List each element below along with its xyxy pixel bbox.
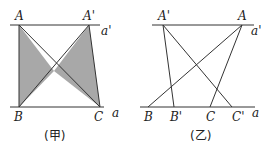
label-C-prime: C' [232, 110, 244, 124]
label-B: B [13, 110, 23, 124]
parallel-lines-triangles-diagram: A A' a' B C a (甲) A' A a' B B' C C' a (乙… [0, 0, 272, 152]
label-line-a: a [112, 106, 119, 120]
caption-jia: (甲) [44, 129, 65, 143]
label-B: B [143, 110, 153, 124]
label-C: C [206, 110, 215, 124]
caption-yi: (乙) [190, 129, 211, 143]
segment-AC [210, 25, 242, 107]
label-A-prime: A' [157, 9, 170, 23]
figure-jia: A A' a' B C a (甲) [10, 9, 119, 143]
segment-AB [148, 25, 242, 107]
label-line-a: a [252, 106, 259, 120]
shaded-triangle-right [54, 25, 100, 107]
label-line-a-prime: a' [101, 24, 111, 38]
label-A-prime: A' [82, 9, 95, 23]
segment-A'C' [163, 25, 232, 107]
label-C: C [94, 110, 103, 124]
label-A: A [237, 9, 247, 23]
label-line-a-prime: a' [251, 24, 261, 38]
figure-yi: A' A a' B B' C C' a (乙) [140, 9, 261, 143]
shaded-triangle-left [19, 25, 54, 107]
label-A: A [14, 9, 24, 23]
label-B-prime: B' [169, 110, 182, 124]
segment-A'B' [163, 25, 174, 107]
